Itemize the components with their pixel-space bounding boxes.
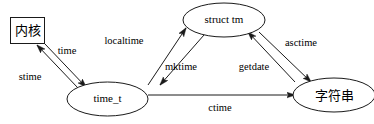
edge-label-ctime: ctime — [208, 102, 232, 113]
node-struct-tm[interactable]: struct tm — [183, 3, 265, 37]
node-string[interactable]: 字符串 — [293, 78, 374, 112]
edge-mktime-line — [160, 35, 204, 85]
edge-label-localtime: localtime — [104, 35, 143, 46]
edge-localtime: localtime — [104, 28, 186, 85]
node-time-t[interactable]: time_t — [67, 82, 148, 116]
edge-label-getdate: getdate — [239, 61, 270, 72]
node-string-label: 字符串 — [315, 88, 354, 103]
diagram-canvas: stime time localtime mktime getdate asct… — [0, 0, 374, 124]
diagram-svg: stime time localtime mktime getdate asct… — [0, 0, 374, 124]
edge-label-asctime: asctime — [285, 37, 317, 48]
edge-label-mktime: mktime — [165, 61, 197, 72]
edge-time: time — [45, 44, 86, 87]
edge-mktime: mktime — [160, 35, 204, 85]
node-time-t-label: time_t — [93, 92, 121, 104]
edge-label-time: time — [58, 45, 77, 56]
node-kernel-label: 内核 — [15, 23, 41, 38]
edge-label-stime: stime — [19, 71, 42, 82]
edge-ctime: ctime — [148, 95, 295, 113]
node-kernel[interactable]: 内核 — [11, 18, 45, 44]
node-struct-tm-label: struct tm — [205, 13, 244, 25]
